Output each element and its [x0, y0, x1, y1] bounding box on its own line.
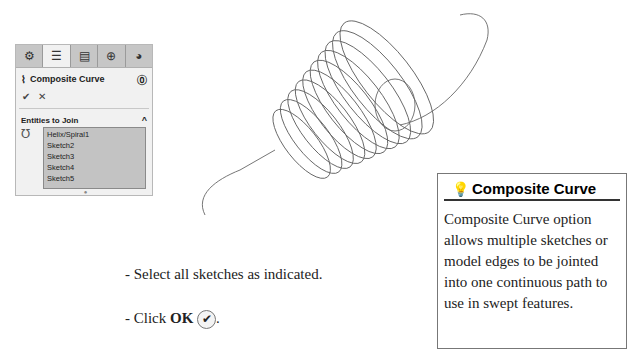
list-item[interactable]: Helix/Spiral1 [47, 129, 142, 140]
property-manager-icon: ☰ [51, 49, 62, 63]
section-title: Entities to Join [21, 116, 78, 125]
tip-body: Composite Curve option allows multiple s… [438, 201, 626, 314]
help-icon[interactable]: ⓪ [137, 72, 147, 87]
cancel-button[interactable]: ✕ [38, 91, 46, 102]
instruction-select: - Select all sketches as indicated. [125, 266, 322, 283]
lightbulb-icon: 💡 [452, 181, 469, 197]
tab-feature-manager[interactable]: ⚙ [16, 45, 43, 67]
tab-configuration-manager[interactable]: ▤ [71, 45, 98, 67]
instruction-click-ok: - Click OK ✔. [125, 310, 220, 329]
entities-row: ℧ Helix/Spiral1 Sketch2 Sketch3 Sketch4 … [16, 127, 152, 189]
list-item[interactable]: Sketch3 [47, 151, 142, 162]
ok-button[interactable]: ✔ [22, 91, 30, 102]
panel-tabs: ⚙ ☰ ▤ ⊕ ◕ [16, 45, 152, 68]
curve-icon: ℧ [21, 127, 43, 189]
panel-title: ⌇ Composite Curve ⓪ [16, 70, 152, 88]
tab-display-manager[interactable]: ◕ [126, 45, 152, 67]
tip-box: 💡 Composite Curve Composite Curve option… [437, 173, 627, 349]
panel-actions: ✔ ✕ [16, 88, 152, 104]
tip-header: 💡 Composite Curve [444, 174, 620, 201]
entities-list[interactable]: Helix/Spiral1 Sketch2 Sketch3 Sketch4 Sk… [43, 127, 146, 189]
list-item[interactable]: Sketch4 [47, 162, 142, 173]
tab-property-manager[interactable]: ☰ [43, 45, 70, 67]
list-item[interactable]: Sketch5 [47, 173, 142, 184]
ok-check-icon: ✔ [197, 310, 216, 329]
tip-title: Composite Curve [472, 180, 596, 197]
composite-curve-icon: ⌇ [21, 74, 26, 85]
entities-section-header[interactable]: Entities to Join ^ [16, 113, 152, 127]
property-manager-panel: ⚙ ☰ ▤ ⊕ ◕ ⌇ Composite Curve ⓪ ✔ ✕ Entiti… [15, 44, 153, 196]
tab-dimxpert[interactable]: ⊕ [98, 45, 125, 67]
display-manager-icon: ◕ [135, 49, 142, 63]
list-item[interactable]: Sketch2 [47, 140, 142, 151]
configuration-manager-icon: ▤ [79, 49, 90, 63]
dimxpert-icon: ⊕ [106, 49, 116, 63]
ok-label: OK [170, 310, 193, 326]
chevron-up-icon[interactable]: ^ [142, 115, 147, 125]
divider [19, 108, 149, 109]
resize-handle[interactable]: ● [38, 189, 133, 195]
feature-manager-icon: ⚙ [24, 49, 35, 63]
panel-title-text: Composite Curve [30, 74, 105, 84]
